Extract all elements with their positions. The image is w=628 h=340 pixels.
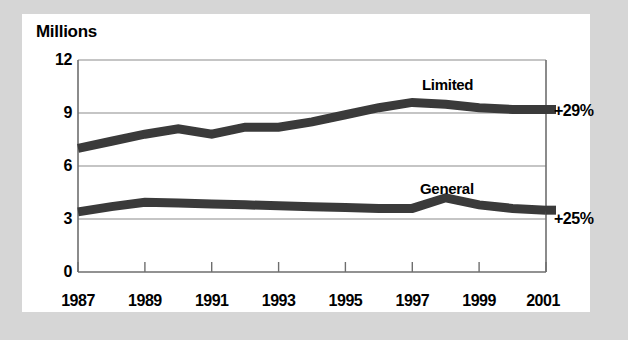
x-tick-label-1991: 1991: [195, 292, 229, 310]
gridlines: [78, 60, 546, 219]
x-axis: 1987 1989 1991 1993 1995 1997 1999 2001: [22, 292, 590, 316]
annotation-limited-percent: +29%: [554, 102, 593, 120]
series-general-line: [78, 198, 546, 212]
series-label-general: General: [420, 180, 474, 197]
annotation-general-percent: +25%: [554, 210, 593, 228]
y-tick-label-3: 3: [38, 210, 72, 228]
chart-card: Millions 12 9 6 3 0: [22, 14, 590, 312]
series-label-limited: Limited: [422, 76, 473, 93]
y-tick-label-6: 6: [38, 157, 72, 175]
x-tick-label-1993: 1993: [262, 292, 296, 310]
x-tick-label-1989: 1989: [128, 292, 162, 310]
x-tick-marks: [78, 262, 546, 272]
x-tick-label-1997: 1997: [396, 292, 430, 310]
chart-canvas: Millions 12 9 6 3 0: [0, 0, 628, 340]
x-tick-label-2001: 2001: [526, 292, 560, 310]
x-tick-label-1995: 1995: [329, 292, 363, 310]
y-tick-label-12: 12: [38, 51, 72, 69]
x-tick-label-1999: 1999: [462, 292, 496, 310]
y-tick-label-0: 0: [38, 263, 72, 281]
y-tick-label-9: 9: [38, 104, 72, 122]
series-limited-line: [78, 102, 546, 148]
y-axis: 12 9 6 3 0: [22, 14, 72, 312]
plot-area: [22, 14, 590, 312]
x-tick-label-1987: 1987: [61, 292, 95, 310]
series-tails: [546, 109, 556, 210]
